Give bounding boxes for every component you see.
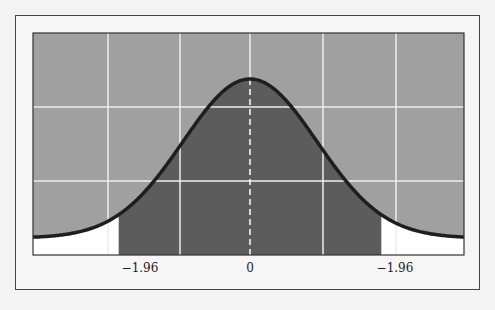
tick-label-center: 0 [246, 261, 254, 275]
tick-label-left: −1.96 [122, 261, 159, 275]
tick-label-right: −1.96 [377, 261, 414, 275]
